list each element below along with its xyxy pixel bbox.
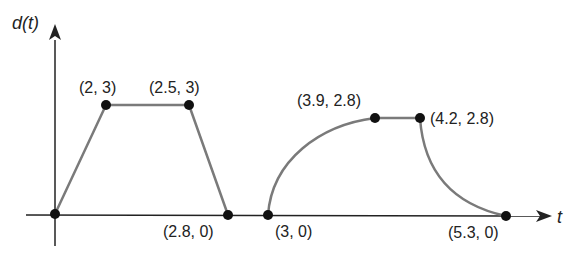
segment-1-line (55, 105, 228, 215)
point-5.3-0 (501, 211, 511, 221)
point-2.8-0 (223, 210, 233, 220)
chart: d(t) t (2, 3) (2.5, 3) (2.8, 0) (3, 0) (… (0, 0, 564, 258)
point-3.9-2.8 (370, 113, 380, 123)
y-axis-arrow-icon (49, 24, 61, 40)
label-4.2-2.8: (4.2, 2.8) (430, 110, 494, 127)
label-3-0: (3, 0) (275, 223, 312, 240)
point-3-0 (263, 210, 273, 220)
label-2-3: (2, 3) (79, 79, 116, 96)
point-4.2-2.8 (415, 113, 425, 123)
point-2-3 (101, 100, 111, 110)
x-axis (26, 215, 540, 216)
point-origin (50, 209, 60, 219)
y-axis-label: d(t) (12, 13, 39, 33)
label-2.8-0: (2.8, 0) (163, 223, 214, 240)
x-axis-label: t (557, 207, 563, 227)
label-5.3-0: (5.3, 0) (448, 224, 499, 241)
segment-2-rise-curve (268, 118, 375, 215)
label-3.9-2.8: (3.9, 2.8) (297, 92, 361, 109)
segment-2-fall-curve (420, 118, 506, 216)
point-2.5-3 (184, 100, 194, 110)
label-2.5-3: (2.5, 3) (149, 79, 200, 96)
